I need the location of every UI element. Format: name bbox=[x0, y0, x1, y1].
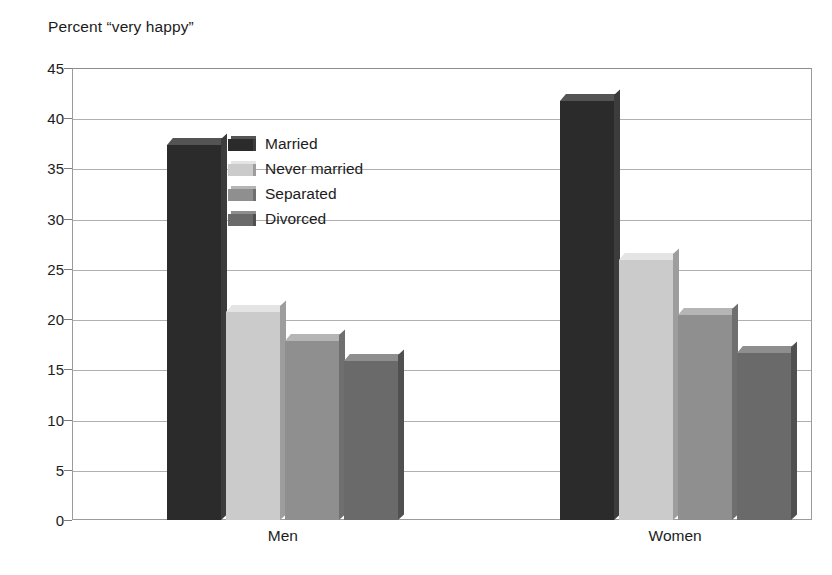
y-axis-labels: 051015202530354045 bbox=[0, 68, 64, 520]
y-tick-label: 35 bbox=[2, 160, 64, 177]
chart-title: Percent “very happy” bbox=[48, 18, 194, 36]
y-tick-mark bbox=[64, 470, 72, 471]
legend-label: Separated bbox=[265, 186, 337, 202]
y-tick-label: 30 bbox=[2, 210, 64, 227]
x-group-label-men: Men bbox=[268, 527, 298, 545]
y-tick-label: 25 bbox=[2, 260, 64, 277]
y-tick-mark bbox=[64, 68, 72, 69]
y-tick-mark bbox=[64, 520, 72, 521]
y-tick-label: 20 bbox=[2, 311, 64, 328]
legend-swatch-married bbox=[228, 136, 256, 151]
y-tick-label: 5 bbox=[2, 461, 64, 478]
gridline bbox=[73, 320, 811, 321]
y-tick-label: 40 bbox=[2, 110, 64, 127]
legend: Married Never married Separated bbox=[228, 131, 438, 231]
legend-item: Separated bbox=[228, 181, 438, 206]
gridline bbox=[73, 471, 811, 472]
y-tick-mark bbox=[64, 168, 72, 169]
legend-label: Married bbox=[265, 136, 318, 152]
gridline bbox=[73, 169, 811, 170]
y-tick-label: 10 bbox=[2, 411, 64, 428]
swatch-side-face bbox=[253, 139, 256, 151]
swatch-side-face bbox=[253, 189, 256, 201]
gridline bbox=[73, 220, 811, 221]
legend-item: Never married bbox=[228, 156, 438, 181]
y-tick-mark bbox=[64, 420, 72, 421]
legend-swatch-separated bbox=[228, 186, 256, 201]
y-tick-mark bbox=[64, 269, 72, 270]
gridline bbox=[73, 119, 811, 120]
legend-item: Married bbox=[228, 131, 438, 156]
swatch-front-face bbox=[228, 164, 253, 176]
x-group-label-women: Women bbox=[649, 527, 702, 545]
gridline bbox=[73, 270, 811, 271]
gridline bbox=[73, 370, 811, 371]
plot-area bbox=[72, 68, 812, 520]
swatch-side-face bbox=[253, 214, 256, 226]
swatch-front-face bbox=[228, 214, 253, 226]
swatch-front-face bbox=[228, 139, 253, 151]
y-tick-mark bbox=[64, 219, 72, 220]
swatch-front-face bbox=[228, 189, 253, 201]
bar-chart: Percent “very happy” 051015202530354045 … bbox=[0, 0, 832, 575]
legend-item: Divorced bbox=[228, 206, 438, 231]
y-tick-mark bbox=[64, 369, 72, 370]
y-tick-label: 45 bbox=[2, 60, 64, 77]
legend-swatch-never-married bbox=[228, 161, 256, 176]
gridline bbox=[73, 421, 811, 422]
legend-swatch-divorced bbox=[228, 211, 256, 226]
y-tick-label: 15 bbox=[2, 361, 64, 378]
y-tick-mark bbox=[64, 319, 72, 320]
legend-label: Divorced bbox=[265, 211, 326, 227]
y-tick-mark bbox=[64, 118, 72, 119]
swatch-side-face bbox=[253, 164, 256, 176]
y-tick-label: 0 bbox=[2, 512, 64, 529]
legend-label: Never married bbox=[265, 161, 363, 177]
